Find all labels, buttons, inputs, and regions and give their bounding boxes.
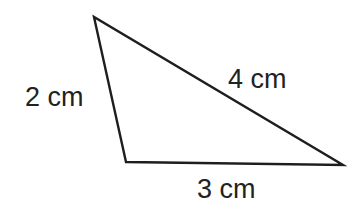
triangle-diagram: 2 cm 4 cm 3 cm [0, 0, 356, 215]
left-side-label: 2 cm [25, 82, 84, 112]
hypotenuse-label: 4 cm [228, 64, 287, 94]
bottom-side-label: 3 cm [197, 174, 256, 204]
triangle-shape [94, 17, 343, 165]
